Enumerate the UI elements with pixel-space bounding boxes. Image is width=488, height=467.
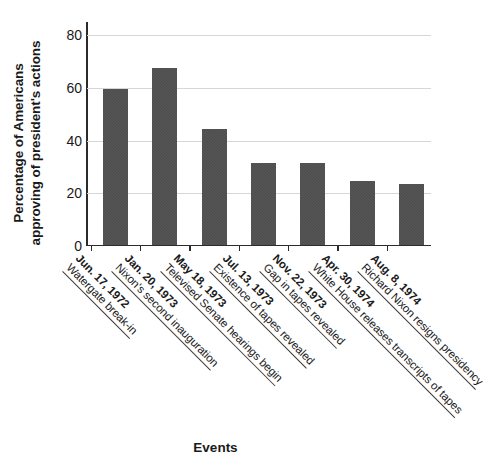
x-axis-title: Events (0, 440, 431, 455)
gridline (87, 88, 431, 89)
gridline (87, 141, 431, 142)
bar (152, 68, 177, 245)
bar (103, 89, 128, 244)
bar (251, 163, 276, 245)
bar (399, 184, 424, 245)
bar (300, 163, 325, 245)
y-axis-title-line1: Percentage of Americans (10, 18, 27, 268)
y-axis-line (86, 22, 88, 246)
gridline (87, 35, 431, 36)
y-axis-tick-label: 40 (42, 134, 82, 148)
y-axis-tick-label: 80 (42, 28, 82, 42)
bar (350, 181, 375, 244)
y-axis-tick-label: 20 (42, 186, 82, 200)
y-axis-tick-label: 60 (42, 81, 82, 95)
plot-area: 020406080 (86, 22, 431, 246)
x-axis-category-labels: Jun. 17, 1972Watergate break-inJan. 20, … (0, 246, 431, 431)
bar (202, 129, 227, 245)
